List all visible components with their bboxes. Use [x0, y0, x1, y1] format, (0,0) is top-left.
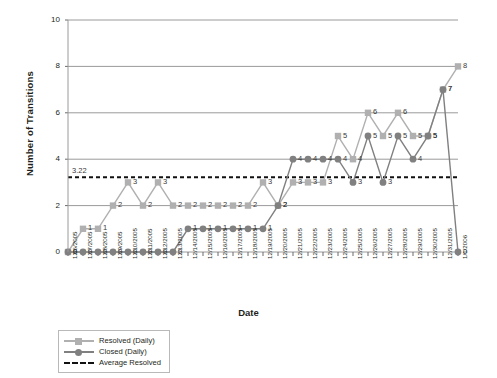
x-tick-label: 12/14/2005 [191, 228, 198, 259]
data-point-label: 0 [463, 247, 467, 256]
data-point-label: 3 [358, 177, 362, 186]
data-point-label: 2 [283, 200, 287, 209]
data-point-label: 0 [178, 247, 182, 256]
data-point [260, 179, 266, 185]
legend-label-resolved: Resolved (Daily) [99, 336, 155, 345]
x-tick-label: 12/21/2005 [296, 228, 303, 259]
average-value-label: 3.22 [72, 166, 87, 175]
data-point-label: 1 [208, 223, 212, 232]
y-tick-10: 10 [36, 15, 60, 24]
data-point [305, 179, 311, 185]
data-point [365, 110, 371, 116]
data-point-label: 5 [343, 131, 347, 140]
data-point-label: 0 [118, 247, 122, 256]
data-point-label: 4 [328, 154, 332, 163]
data-point [350, 156, 356, 162]
data-point [155, 179, 161, 185]
data-point-label: 3 [313, 177, 317, 186]
x-tick-label: 12/26/2005 [371, 228, 378, 259]
data-point-label: 4 [358, 154, 362, 163]
legend-item-resolved[interactable]: Resolved (Daily) [64, 335, 161, 346]
legend-label-average: Average Resolved [99, 358, 161, 367]
data-point-label: 4 [298, 154, 302, 163]
x-tick-label: 12/20/2005 [281, 228, 288, 259]
data-point [290, 156, 297, 163]
legend-item-average[interactable]: Average Resolved [64, 357, 161, 368]
data-point [200, 202, 206, 208]
data-point-label: 2 [193, 200, 197, 209]
x-tick-label: 12/24/2005 [341, 228, 348, 259]
chart-container: Number of Transitions Date 0246810 12/6/… [0, 0, 497, 378]
data-point-label: 0 [73, 247, 77, 256]
y-tick-4: 4 [36, 154, 60, 163]
data-point-label: 3 [133, 177, 137, 186]
y-tick-6: 6 [36, 108, 60, 117]
data-point [125, 179, 131, 185]
data-point [455, 63, 461, 69]
x-tick-label: 12/25/2005 [356, 228, 363, 259]
data-point [275, 202, 282, 209]
data-point [245, 202, 251, 208]
data-point [110, 202, 116, 208]
plot-area [0, 0, 497, 378]
data-point [410, 133, 416, 139]
legend-swatch-closed [64, 346, 94, 357]
x-tick-label: 12/30/2005 [431, 228, 438, 259]
data-point [170, 202, 176, 208]
x-tick-label: 12/31/2005 [446, 228, 453, 259]
data-point-label: 2 [238, 200, 242, 209]
data-point [395, 110, 401, 116]
data-point-label: 7 [448, 84, 452, 93]
data-point-label: 0 [163, 247, 167, 256]
data-point-label: 6 [373, 107, 377, 116]
data-point-label: 4 [418, 154, 422, 163]
legend-item-closed[interactable]: Closed (Daily) [64, 346, 161, 357]
data-point [380, 133, 386, 139]
x-tick-label: 12/16/2005 [221, 228, 228, 259]
legend-label-closed: Closed (Daily) [99, 347, 147, 356]
data-point-label: 1 [268, 223, 272, 232]
data-point-label: 0 [88, 247, 92, 256]
data-point-label: 5 [388, 131, 392, 140]
data-point-label: 5 [418, 131, 422, 140]
data-point [410, 156, 417, 163]
data-point-label: 2 [178, 200, 182, 209]
data-point [425, 133, 432, 140]
data-point [305, 156, 312, 163]
data-point-label: 2 [208, 200, 212, 209]
data-point-label: 2 [253, 200, 257, 209]
data-point-label: 8 [463, 61, 467, 70]
x-tick-label: 12/29/2005 [416, 228, 423, 259]
data-point [335, 133, 341, 139]
x-tick-label: 12/23/2005 [326, 228, 333, 259]
data-point-label: 0 [148, 247, 152, 256]
data-point-label: 4 [343, 154, 347, 163]
data-point-label: 4 [313, 154, 317, 163]
data-point [320, 156, 327, 163]
data-point [365, 133, 372, 140]
data-point [185, 202, 191, 208]
data-point-label: 3 [388, 177, 392, 186]
data-point-label: 5 [403, 131, 407, 140]
y-tick-8: 8 [36, 61, 60, 70]
data-point-label: 3 [328, 177, 332, 186]
y-tick-0: 0 [36, 247, 60, 256]
data-point [335, 156, 342, 163]
x-tick-label: 12/18/2005 [251, 228, 258, 259]
data-point-label: 0 [103, 247, 107, 256]
x-tick-label: 12/27/2005 [386, 228, 393, 259]
data-point-label: 1 [88, 223, 92, 232]
data-point-label: 0 [133, 247, 137, 256]
x-tick-label: 12/15/2005 [206, 228, 213, 259]
data-point-label: 3 [163, 177, 167, 186]
chart-legend: Resolved (Daily) Closed (Daily) Average … [58, 330, 170, 373]
legend-swatch-resolved [64, 335, 94, 346]
x-tick-label: 12/17/2005 [236, 228, 243, 259]
data-point-label: 1 [238, 223, 242, 232]
data-point-label: 3 [268, 177, 272, 186]
data-point-label: 1 [223, 223, 227, 232]
data-point-label: 6 [403, 107, 407, 116]
x-tick-label: 12/22/2005 [311, 228, 318, 259]
data-point [320, 179, 326, 185]
data-point-label: 5 [433, 131, 437, 140]
